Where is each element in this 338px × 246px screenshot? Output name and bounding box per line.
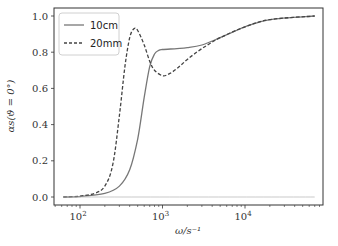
y-tick-label: 1.0	[32, 11, 48, 22]
y-axis-label: αs(ϑ = 0°)	[5, 79, 16, 132]
legend: 10cm 20mm	[59, 13, 122, 55]
legend-label-10cm: 10cm	[90, 20, 118, 31]
y-tick-label: 0.8	[32, 47, 48, 58]
x-tick-label: 102	[69, 210, 86, 222]
y-tick-label: 0.2	[32, 155, 48, 166]
y-tick-label: 0.4	[32, 119, 48, 130]
y-tick-label: 0.0	[32, 192, 48, 203]
x-axis: 102103104	[55, 205, 319, 222]
chart: 0.00.20.40.60.81.0 102103104 10cm 20mm ω…	[0, 0, 338, 246]
x-tick-label: 103	[152, 210, 169, 222]
y-axis: 0.00.20.40.60.81.0	[32, 11, 54, 203]
y-tick-label: 0.6	[32, 83, 48, 94]
legend-label-20mm: 20mm	[90, 38, 122, 49]
x-tick-label: 104	[234, 210, 252, 222]
x-axis-label: ω/s⁻¹	[175, 225, 201, 236]
